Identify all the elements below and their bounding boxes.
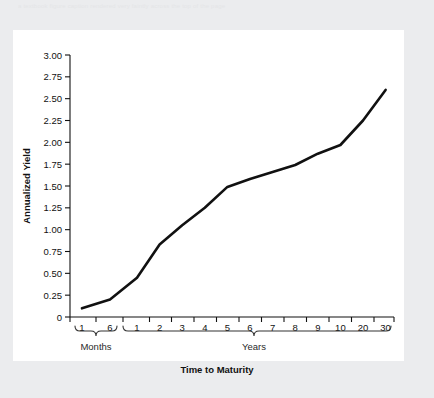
y-axis-tick-labels: 00.250.500.751.001.251.501.752.002.252.5… <box>44 50 63 323</box>
y-tick-label: 0.50 <box>44 268 63 279</box>
y-tick-label: 3.00 <box>44 50 63 61</box>
months-group-label: Months <box>80 341 111 352</box>
y-axis-title: Annualized Yield <box>21 148 32 224</box>
y-tick-label: 2.75 <box>44 71 63 82</box>
years-group-brace <box>123 326 391 336</box>
y-tick-label: 2.50 <box>44 93 63 104</box>
y-tick-label: 1.50 <box>44 181 63 192</box>
y-tick-label: 1.75 <box>44 159 63 170</box>
yield-curve-chart: 00.250.500.751.001.251.501.752.002.252.5… <box>13 30 404 361</box>
y-axis-ticks <box>65 55 70 317</box>
y-tick-label: 2.00 <box>44 137 63 148</box>
yield-curve-line <box>82 90 386 308</box>
years-group-label: Years <box>242 341 266 352</box>
chart-panel: 00.250.500.751.001.251.501.752.002.252.5… <box>13 30 404 361</box>
faint-page-header-text: a textbook figure caption rendered very … <box>18 3 416 12</box>
y-tick-label: 0 <box>57 312 62 323</box>
y-tick-label: 0.25 <box>44 290 63 301</box>
y-tick-label: 0.75 <box>44 246 63 257</box>
y-tick-label: 1.25 <box>44 202 63 213</box>
y-tick-label: 2.25 <box>44 115 63 126</box>
x-axis-title: Time to Maturity <box>0 364 434 375</box>
y-tick-label: 1.00 <box>44 224 63 235</box>
